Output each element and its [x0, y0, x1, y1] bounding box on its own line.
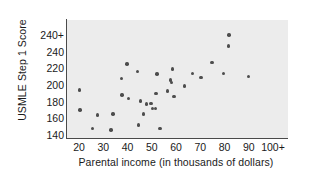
data-point: [154, 107, 157, 110]
data-point: [222, 72, 225, 75]
y-tick-label: 240: [30, 47, 64, 58]
data-point: [191, 72, 194, 75]
data-point: [158, 127, 161, 130]
data-point: [227, 44, 230, 47]
data-point: [137, 123, 140, 126]
data-point: [171, 67, 174, 70]
data-point: [199, 76, 202, 79]
data-point: [210, 61, 213, 64]
data-point: [170, 81, 173, 84]
data-point: [78, 108, 81, 111]
scatter-chart-figure: USMLE Step 1 Score 140160180200220240240…: [0, 0, 325, 179]
y-tick-label: 140: [30, 130, 64, 141]
data-point: [127, 97, 130, 100]
data-point: [154, 92, 157, 95]
x-axis-line: [66, 138, 288, 139]
data-point: [183, 84, 186, 87]
y-tick-label: 200: [30, 80, 64, 91]
data-point: [142, 112, 145, 115]
y-tick-label: 240+: [30, 30, 64, 41]
y-tick-label: 180: [30, 97, 64, 108]
data-point: [109, 128, 112, 131]
data-point: [120, 77, 123, 80]
data-point: [172, 95, 175, 98]
x-tick-label: 100+: [255, 142, 291, 153]
x-axis-title: Parental income (in thousands of dollars…: [60, 156, 292, 168]
x-axis-tick-labels: 2030405060708090100+: [0, 142, 325, 156]
y-tick-label: 160: [30, 113, 64, 124]
data-point: [139, 99, 142, 102]
y-tick-label: 220: [30, 63, 64, 74]
data-point: [91, 127, 94, 130]
data-point: [247, 75, 250, 78]
data-point: [111, 112, 114, 115]
data-point: [120, 93, 123, 96]
data-point: [78, 88, 81, 91]
data-point: [96, 113, 99, 116]
data-point: [149, 102, 152, 105]
data-point: [136, 70, 139, 73]
data-point: [145, 102, 148, 105]
data-point: [227, 33, 230, 36]
data-point: [155, 72, 158, 75]
data-point: [125, 62, 128, 65]
data-point: [166, 89, 169, 92]
plot-area: [67, 20, 288, 138]
